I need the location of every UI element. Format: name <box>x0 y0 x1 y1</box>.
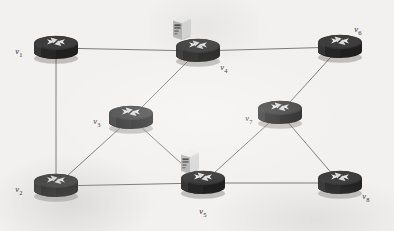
node-label-sub-v7: 7 <box>249 118 252 125</box>
node-label-sub-v8: 8 <box>366 196 369 203</box>
node-v3[interactable] <box>104 101 158 135</box>
network-diagram: v1v2v3v4v5v6v7v8 <box>0 0 394 231</box>
node-v5[interactable] <box>176 166 230 200</box>
node-label-sub-v4: 4 <box>224 67 227 74</box>
node-label-v6: v6 <box>354 24 361 36</box>
router-icon-v8 <box>313 166 367 200</box>
router-icon-v7 <box>253 96 307 130</box>
router-icon-v4 <box>171 34 225 68</box>
node-v4[interactable] <box>171 34 225 68</box>
node-label-v1: v1 <box>15 46 22 58</box>
node-label-sub-v6: 6 <box>358 29 361 36</box>
node-label-v5: v5 <box>199 206 206 218</box>
node-v8[interactable] <box>313 166 367 200</box>
router-icon-v5 <box>176 166 230 200</box>
node-label-sub-v1: 1 <box>19 51 22 58</box>
node-label-v3: v3 <box>93 116 100 128</box>
node-label-sub-v3: 3 <box>97 121 100 128</box>
router-icon-v2 <box>29 169 83 203</box>
node-label-v7: v7 <box>245 113 252 125</box>
node-label-v4: v4 <box>220 62 227 74</box>
node-label-v2: v2 <box>15 184 22 196</box>
node-label-sub-v5: 5 <box>203 211 206 218</box>
node-v1[interactable] <box>29 31 83 65</box>
node-v2[interactable] <box>29 169 83 203</box>
node-v7[interactable] <box>253 96 307 130</box>
node-label-sub-v2: 2 <box>19 189 22 196</box>
router-icon-v1 <box>29 31 83 65</box>
router-icon-v3 <box>104 101 158 135</box>
node-label-v8: v8 <box>362 191 369 203</box>
